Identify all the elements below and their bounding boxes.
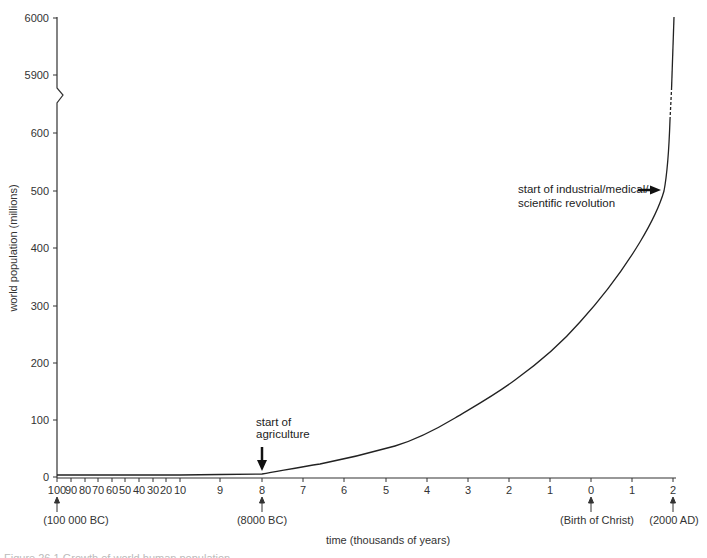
x-tick-label: 5 (383, 484, 389, 496)
x-tick-label: 90 (65, 484, 77, 496)
x-tick-label: 2 (506, 484, 512, 496)
x-tick-label: 80 (79, 484, 91, 496)
population-curve (57, 120, 670, 475)
x-tick-label: 8 (259, 484, 265, 496)
ref-label-2000ad: (2000 AD) (649, 514, 699, 526)
x-tick-label: 60 (106, 484, 118, 496)
y-axis (57, 17, 63, 478)
x-tick-label: 100 (48, 484, 66, 496)
figure-caption: Figure 26.1 Growth of world human popula… (4, 549, 230, 558)
population-chart: 0 100 200 300 400 500 600 5900 6000 worl… (0, 0, 707, 558)
population-curve-upper (672, 17, 675, 90)
population-curve-dashed (670, 90, 672, 120)
x-tick-label: 1 (629, 484, 635, 496)
y-tick-label: 400 (31, 242, 49, 254)
industrial-annotation: start of industrial/medical/ scientific … (518, 183, 661, 209)
ref-label-8000bc: (8000 BC) (237, 514, 287, 526)
y-tick-label: 600 (31, 127, 49, 139)
y-tick-label: 5900 (25, 69, 49, 81)
x-tick-label: 20 (160, 484, 172, 496)
x-tick-label: 7 (300, 484, 306, 496)
x-tick-labels: 100 90 80 70 60 50 40 30 20 10 9 8 7 6 5… (48, 484, 676, 496)
x-tick-label: 1 (547, 484, 553, 496)
ref-label-birth-of-christ: (Birth of Christ) (560, 514, 634, 526)
x-tick-label: 70 (92, 484, 104, 496)
agriculture-annotation: start of agriculture (256, 416, 310, 471)
y-axis-title: world population (millions) (7, 184, 19, 312)
x-tick-label: 3 (465, 484, 471, 496)
ref-label-100000bc: (100 000 BC) (43, 514, 108, 526)
x-tick-label: 4 (424, 484, 430, 496)
down-arrow-icon (257, 447, 267, 471)
x-tick-label: 50 (119, 484, 131, 496)
industrial-label-line1: start of industrial/medical/ (518, 183, 649, 195)
x-tick-label: 0 (588, 484, 594, 496)
x-tick-label: 6 (341, 484, 347, 496)
y-tick-label: 200 (31, 357, 49, 369)
agriculture-label-line1: start of (256, 416, 292, 428)
y-tick-label: 0 (43, 471, 49, 483)
x-tick-label: 40 (133, 484, 145, 496)
agriculture-label-line2: agriculture (256, 428, 310, 440)
y-tick-label: 500 (31, 185, 49, 197)
reference-arrows (55, 497, 676, 512)
y-tick-label: 100 (31, 414, 49, 426)
x-tick-label: 10 (174, 484, 186, 496)
y-tick-label: 6000 (25, 12, 49, 24)
x-tick-label: 30 (147, 484, 159, 496)
industrial-label-line2: scientific revolution (518, 197, 615, 209)
x-tick-label: 9 (217, 484, 223, 496)
x-tick-label: 2 (670, 484, 676, 496)
y-tick-label: 300 (31, 300, 49, 312)
x-axis-title: time (thousands of years) (326, 534, 450, 546)
y-tick-labels: 0 100 200 300 400 500 600 5900 6000 (25, 12, 49, 483)
